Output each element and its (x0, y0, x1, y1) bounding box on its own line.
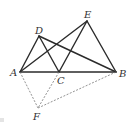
segment-AF (20, 72, 38, 108)
geometry-figure: A B C D E F (0, 0, 132, 131)
segment-FB (38, 72, 116, 108)
point-label-E: E (83, 9, 92, 20)
segment-DB (39, 36, 116, 72)
segment-EB (87, 21, 116, 72)
point-label-F: F (32, 111, 41, 122)
point-label-A: A (9, 67, 17, 78)
segment-AD (20, 36, 39, 72)
segment-CF (38, 72, 59, 108)
segment-CE (59, 21, 87, 72)
point-label-C: C (57, 75, 65, 86)
point-label-B: B (118, 68, 126, 79)
segment-AE (20, 21, 87, 72)
point-label-D: D (34, 25, 43, 36)
